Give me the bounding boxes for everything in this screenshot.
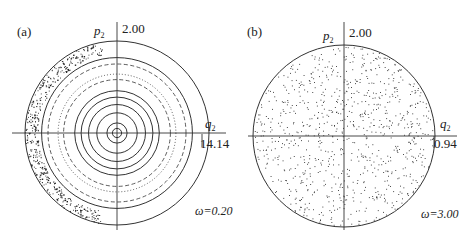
chaotic-point	[315, 67, 316, 68]
chaotic-point	[318, 172, 319, 173]
chaotic-point	[291, 66, 292, 67]
chaotic-point	[353, 182, 354, 183]
chaotic-point	[304, 212, 305, 213]
chaotic-point	[281, 122, 282, 123]
chaotic-point	[34, 167, 35, 168]
chaotic-point	[312, 55, 313, 56]
chaotic-point	[54, 67, 55, 68]
chaotic-point	[310, 176, 311, 177]
chaotic-point	[353, 190, 354, 191]
chaotic-point	[386, 110, 387, 111]
chaotic-point	[375, 58, 376, 59]
chaotic-point	[53, 181, 54, 182]
chaotic-point	[386, 126, 387, 127]
chaotic-point	[40, 181, 41, 182]
chaotic-point	[384, 198, 385, 199]
chaotic-point	[373, 83, 374, 84]
chaotic-point	[367, 160, 368, 161]
chaotic-point	[365, 187, 366, 188]
chaotic-point	[350, 62, 351, 63]
chaotic-point	[78, 204, 79, 205]
chaotic-point	[371, 83, 372, 84]
chaotic-point	[318, 159, 319, 160]
chaotic-point	[393, 205, 394, 206]
chaotic-point	[290, 168, 291, 169]
chaotic-point	[395, 146, 396, 147]
chaotic-point	[315, 57, 316, 58]
chaotic-point	[353, 197, 354, 198]
chaotic-point	[35, 95, 36, 96]
chaotic-point	[262, 123, 263, 124]
chaotic-point	[298, 145, 299, 146]
chaotic-point	[416, 160, 417, 161]
chaotic-point	[354, 93, 355, 94]
chaotic-point	[406, 176, 407, 177]
chaotic-point	[401, 120, 402, 121]
chaotic-point	[387, 58, 388, 59]
chaotic-point	[364, 134, 365, 135]
chaotic-point	[335, 107, 336, 108]
chaotic-point	[350, 82, 351, 83]
chaotic-point	[391, 138, 392, 139]
chaotic-point	[284, 170, 285, 171]
chaotic-point	[257, 122, 258, 123]
chaotic-point	[304, 90, 305, 91]
chaotic-point	[398, 70, 399, 71]
chaotic-point	[383, 212, 384, 213]
chaotic-point	[96, 220, 97, 221]
chaotic-point	[41, 172, 42, 173]
chaotic-point	[379, 120, 380, 121]
chaotic-point	[399, 70, 400, 71]
chaotic-point	[418, 88, 419, 89]
chaotic-point	[350, 121, 351, 122]
chaotic-point	[381, 164, 382, 165]
chaotic-point	[91, 210, 92, 211]
chaotic-point	[420, 92, 421, 93]
chaotic-point	[49, 91, 50, 92]
chaotic-point	[413, 180, 414, 181]
chaotic-point	[327, 67, 328, 68]
chaotic-point	[34, 118, 35, 119]
chaotic-point	[380, 81, 381, 82]
chaotic-point	[426, 103, 427, 104]
chaotic-point	[407, 193, 408, 194]
chaotic-point	[337, 209, 338, 210]
chaotic-point	[319, 137, 320, 138]
chaotic-point	[361, 154, 362, 155]
chaotic-point	[55, 189, 56, 190]
chaotic-point	[370, 126, 371, 127]
chaotic-point	[49, 85, 50, 86]
chaotic-point	[270, 91, 271, 92]
chaotic-point	[364, 181, 365, 182]
chaotic-point	[357, 183, 358, 184]
chaotic-point	[52, 70, 53, 71]
chaotic-point	[60, 194, 61, 195]
chaotic-point	[307, 91, 308, 92]
chaotic-point	[416, 180, 417, 181]
chaotic-point	[347, 186, 348, 187]
chaotic-point	[328, 79, 329, 80]
chaotic-point	[96, 216, 97, 217]
chaotic-point	[29, 156, 30, 157]
chaotic-point	[317, 118, 318, 119]
chaotic-point	[416, 143, 417, 144]
chaotic-point	[34, 134, 35, 135]
chaotic-point	[395, 65, 396, 66]
chaotic-point	[342, 149, 343, 150]
chaotic-point	[328, 134, 329, 135]
chaotic-point	[348, 219, 349, 220]
chaotic-point	[388, 78, 389, 79]
chaotic-point	[336, 66, 337, 67]
chaotic-point	[279, 156, 280, 157]
chaotic-point	[283, 198, 284, 199]
panel-b-y-max: 2.00	[349, 25, 372, 40]
chaotic-point	[278, 180, 279, 181]
chaotic-point	[412, 91, 413, 92]
chaotic-point	[397, 178, 398, 179]
chaotic-point	[41, 155, 42, 156]
chaotic-point	[337, 99, 338, 100]
chaotic-point	[57, 200, 58, 201]
chaotic-point	[398, 123, 399, 124]
chaotic-point	[408, 142, 409, 143]
chaotic-point	[260, 150, 261, 151]
